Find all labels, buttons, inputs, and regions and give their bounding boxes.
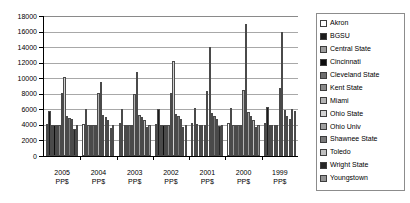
x-label-unit: PP$: [44, 177, 80, 186]
x-axis-group-label: 2003PP$: [117, 168, 153, 186]
x-label-unit: PP$: [225, 177, 261, 186]
bar-group: [225, 16, 261, 156]
legend-swatch-icon: [320, 33, 327, 40]
bar: [112, 125, 114, 157]
legend-item[interactable]: Central State: [320, 43, 402, 56]
legend-swatch-icon: [320, 162, 327, 169]
legend-item[interactable]: Shawnee State: [320, 133, 402, 146]
legend-swatch-icon: [320, 175, 327, 182]
y-axis-tick-label: 8000: [21, 90, 37, 97]
x-axis-group-label: 1999PP$: [262, 168, 298, 186]
legend-item-label: Toledo: [330, 148, 351, 156]
bar: [185, 125, 187, 157]
legend-item[interactable]: Ohio Univ: [320, 120, 402, 133]
bars-layer: [44, 16, 298, 156]
legend-item-label: Wright State: [330, 161, 368, 169]
legend-item[interactable]: Cleveland State: [320, 69, 402, 82]
x-axis-group-label: 2004PP$: [80, 168, 116, 186]
y-axis: 1800016000140001200010000800060004000200…: [0, 0, 43, 160]
y-axis-tick-label: 16000: [18, 28, 37, 35]
chart-root: 1800016000140001200010000800060004000200…: [0, 0, 410, 203]
legend-item-label: Youngstown: [330, 174, 368, 182]
legend-item-label: Cleveland State: [330, 71, 379, 79]
bar-group: [189, 16, 225, 156]
legend-swatch-icon: [320, 59, 327, 66]
x-label-year: 2004: [80, 168, 116, 177]
y-axis-tick-label: 6000: [21, 106, 37, 113]
bar: [257, 125, 259, 157]
y-axis-tick-label: 4000: [21, 121, 37, 128]
y-axis-tick-label: 12000: [18, 59, 37, 66]
x-axis: 2005PP$2004PP$2003PP$2002PP$2001PP$2000P…: [44, 160, 298, 200]
legend-item-label: Miami: [330, 97, 349, 105]
x-label-year: 2000: [225, 168, 261, 177]
legend-swatch-icon: [320, 72, 327, 79]
x-axis-group-label: 2000PP$: [225, 168, 261, 186]
x-label-year: 1999: [262, 168, 298, 177]
x-label-unit: PP$: [262, 177, 298, 186]
legend-item[interactable]: Cincinnati: [320, 56, 402, 69]
bar-group: [80, 16, 116, 156]
chart-legend: AkronBGSUCentral StateCincinnatiClevelan…: [316, 13, 405, 191]
legend-swatch-icon: [320, 46, 327, 53]
x-label-unit: PP$: [153, 177, 189, 186]
x-label-year: 2005: [44, 168, 80, 177]
legend-item[interactable]: BGSU: [320, 30, 402, 43]
bar-group: [44, 16, 80, 156]
legend-swatch-icon: [320, 110, 327, 117]
y-axis-tick-label: 10000: [18, 75, 37, 82]
legend-item-label: Ohio Univ: [330, 123, 361, 131]
x-axis-group-label: 2001PP$: [189, 168, 225, 186]
x-axis-group-label: 2002PP$: [153, 168, 189, 186]
x-label-unit: PP$: [117, 177, 153, 186]
legend-item-label: Akron: [330, 19, 348, 27]
legend-item-label: Central State: [330, 45, 371, 53]
legend-item-label: Shawnee State: [330, 135, 377, 143]
legend-item[interactable]: Akron: [320, 17, 402, 30]
y-axis-tick-label: 14000: [18, 44, 37, 51]
legend-swatch-icon: [320, 136, 327, 143]
bar: [148, 125, 150, 157]
legend-swatch-icon: [320, 149, 327, 156]
legend-swatch-icon: [320, 97, 327, 104]
legend-item-label: Cincinnati: [330, 58, 361, 66]
x-label-year: 2001: [189, 168, 225, 177]
legend-item[interactable]: Miami: [320, 94, 402, 107]
legend-item[interactable]: Toledo: [320, 146, 402, 159]
legend-item[interactable]: Ohio State: [320, 107, 402, 120]
y-axis-tick-label: 2000: [21, 137, 37, 144]
x-label-year: 2003: [117, 168, 153, 177]
x-label-unit: PP$: [80, 177, 116, 186]
bar-group: [262, 16, 298, 156]
bar-group: [117, 16, 153, 156]
bar: [221, 125, 223, 157]
bar-group: [153, 16, 189, 156]
x-label-year: 2002: [153, 168, 189, 177]
legend-item[interactable]: Wright State: [320, 159, 402, 172]
legend-swatch-icon: [320, 123, 327, 130]
bar: [294, 111, 296, 156]
legend-item-label: Ohio State: [330, 110, 363, 118]
y-axis-tick-label: 18000: [18, 13, 37, 20]
x-label-unit: PP$: [189, 177, 225, 186]
y-axis-tick-label: 0: [33, 153, 37, 160]
legend-swatch-icon: [320, 20, 327, 27]
legend-item-label: Kent State: [330, 84, 363, 92]
legend-item-label: BGSU: [330, 32, 350, 40]
bar: [76, 125, 78, 157]
legend-item[interactable]: Youngstown: [320, 172, 402, 185]
legend-item[interactable]: Kent State: [320, 81, 402, 94]
legend-swatch-icon: [320, 84, 327, 91]
x-axis-group-label: 2005PP$: [44, 168, 80, 186]
